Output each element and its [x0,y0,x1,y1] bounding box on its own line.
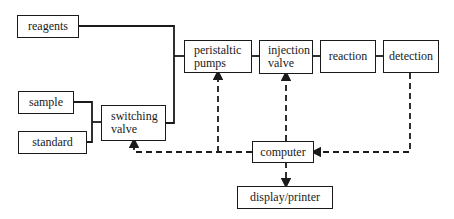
node-standard: standard [18,131,87,154]
dashed-detection-computer [316,73,410,152]
node-label: computer [260,146,305,159]
node-computer: computer [252,141,314,163]
node-label: display/printer [250,191,320,204]
flow-injection-diagram: reagents sample standard switching valve… [0,0,454,219]
line-reagents [79,26,174,42]
line-sample [74,102,92,122]
node-detection: detection [383,40,439,73]
dashed-computer-switching [134,143,252,152]
node-label: detection [389,50,433,63]
node-reagents: reagents [17,15,79,38]
node-label: switching valve [111,110,158,136]
node-label: peristaltic pumps [194,44,241,70]
node-reaction: reaction [320,40,376,73]
line-standard [87,122,92,142]
node-sample: sample [18,91,74,114]
node-display-printer: display/printer [237,186,333,209]
node-peristaltic-pumps: peristaltic pumps [184,40,252,73]
node-label: standard [32,136,73,149]
node-label: reaction [329,50,368,63]
node-switching-valve: switching valve [101,105,166,141]
node-label: injection valve [268,44,310,70]
line-trunk [166,42,174,123]
node-injection-valve: injection valve [259,40,313,74]
node-label: reagents [28,20,68,33]
node-label: sample [29,96,63,109]
